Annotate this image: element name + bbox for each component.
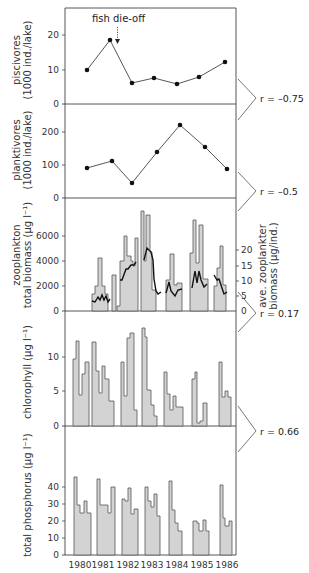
tick-label: 15: [241, 261, 252, 271]
zooplankton-ylabel-2: total biomass (µg l⁻¹): [22, 202, 33, 309]
year-label: 1981: [92, 560, 115, 570]
chlorophyll-tick-labels: 0 5 10: [48, 352, 60, 431]
tick-label: 10: [48, 65, 60, 75]
correlation-r2: r = –0.5: [260, 186, 298, 197]
tick-label: 200: [42, 127, 59, 137]
multi-panel-chart: 0 10 20 0 100 200 0 2000 4000 6000 0 5 1…: [0, 0, 309, 573]
tick-label: 0: [53, 550, 59, 560]
tick-label: 30: [48, 499, 60, 509]
tick-label: 20: [48, 30, 60, 40]
zooplankter-right-ylabel-2: biomass (µg/ind.): [268, 222, 279, 309]
zooplankton-bars: [92, 211, 226, 311]
tick-label: 20: [241, 245, 253, 255]
piscivores-series: [85, 38, 228, 87]
phosphorus-ylabel: total phosphorus (µg l⁻¹): [22, 433, 33, 557]
zooplankton-ylabel-1: zooplankton: [11, 224, 22, 285]
tick-label: 40: [48, 482, 60, 492]
piscivores-ylabel-2: (1000 ind./lake): [22, 20, 33, 99]
tick-label: 100: [42, 160, 59, 170]
year-label: 1985: [191, 560, 214, 570]
tick-label: 2000: [36, 281, 59, 291]
tick-label: 20: [48, 516, 60, 526]
fish-die-off-annotation: fish die-off: [92, 13, 146, 24]
phosphorus-bars: [74, 477, 232, 555]
tick-label: 10: [48, 352, 60, 362]
planktivores-ylabel-1: planktivores: [11, 119, 22, 180]
phosphorus-tick-labels: 0 10 20 30 40: [48, 482, 60, 560]
year-label: 1980: [69, 560, 92, 570]
tick-label: 0: [53, 193, 59, 203]
tick-label: 0: [53, 421, 59, 431]
piscivores-ylabel-1: piscivores: [11, 35, 22, 85]
planktivores-ylabel-2: (1000 ind./lake): [22, 110, 33, 189]
zooplankton-tick-labels: 0 2000 4000 6000: [36, 231, 59, 316]
year-label: 1982: [117, 560, 140, 570]
panel-baselines: [62, 104, 236, 555]
x-axis-year-labels: 1980 1981 1982 1983 1984 1985 1986: [69, 560, 239, 570]
tick-label: 4000: [36, 256, 59, 266]
year-label: 1986: [216, 560, 239, 570]
tick-label: 10: [48, 533, 60, 543]
piscivores-tick-labels: 0 10 20: [48, 30, 60, 109]
chlorophyll-bars: [73, 328, 231, 426]
tick-label: 0: [53, 306, 59, 316]
tick-label: 5: [53, 386, 59, 396]
chlorophyll-ylabel: chlorophyll (µg l⁻¹): [22, 325, 33, 419]
correlation-r4: r = 0.66: [260, 426, 299, 437]
tick-label: 10: [241, 276, 253, 286]
tick-label: 0: [53, 99, 59, 109]
year-label: 1983: [141, 560, 164, 570]
tick-label: 0: [241, 306, 247, 316]
down-arrow-icon: [115, 27, 120, 44]
planktivores-tick-labels: 0 100 200: [42, 127, 59, 203]
zooplankter-right-tick-labels: 0 5 10 15 20: [241, 245, 253, 316]
correlation-r3: r = 0.17: [260, 308, 299, 319]
zooplankter-right-ylabel-1: ave. zooplankter: [257, 223, 268, 307]
tick-label: 6000: [36, 231, 59, 241]
year-label: 1984: [166, 560, 189, 570]
correlation-r1: r = –0.75: [260, 93, 304, 104]
planktivores-series: [85, 123, 230, 186]
